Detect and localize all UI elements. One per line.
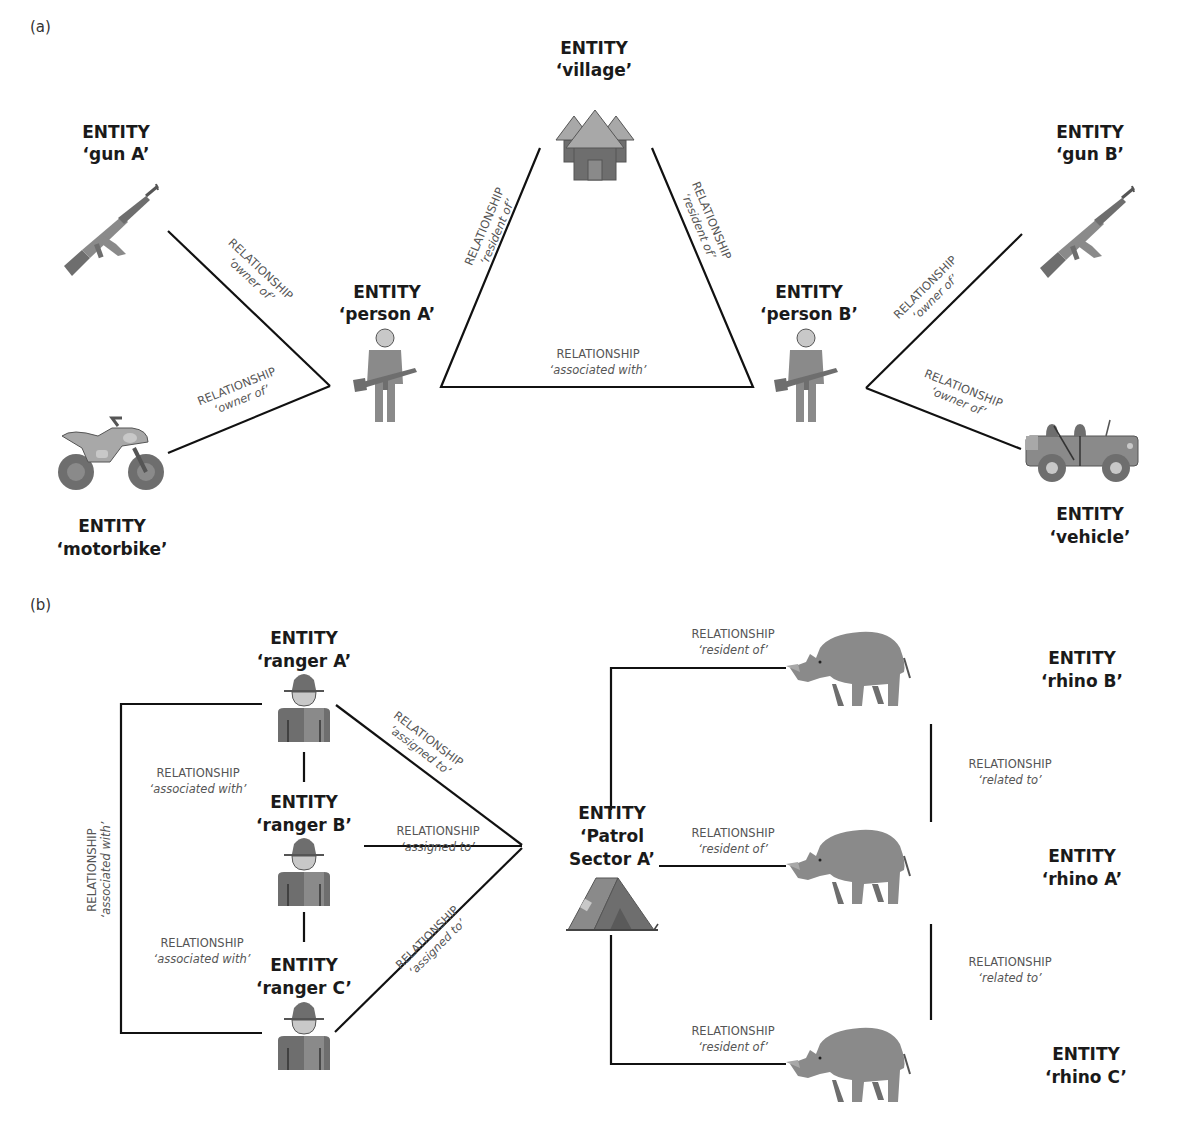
rel-label-rangerB-rangerC: RELATIONSHIP ‘associated with’ xyxy=(154,936,251,966)
entity-person-b: ENTITY ‘person B’ xyxy=(760,282,858,422)
rel-label-personA-motorbike: RELATIONSHIP ‘owner of’ xyxy=(195,364,283,421)
entity-rhino-b: ENTITY ‘rhino B’ xyxy=(786,632,1123,706)
svg-text:RELATIONSHIP: RELATIONSHIP xyxy=(396,824,479,838)
svg-text:‘resident of’: ‘resident of’ xyxy=(698,643,768,657)
rel-label-rangerA-rangerC: RELATIONSHIP ‘associated with’ xyxy=(85,821,113,918)
entity-type: ENTITY xyxy=(1052,1044,1120,1064)
svg-text:RELATIONSHIP: RELATIONSHIP xyxy=(160,936,243,950)
entity-type: ENTITY xyxy=(78,516,146,536)
rel-label-rhinoC-patrol: RELATIONSHIP ‘resident of’ xyxy=(691,1024,774,1054)
entity-gun-a: ENTITY ‘gun A’ xyxy=(64,122,158,276)
entity-type: ENTITY xyxy=(270,628,338,648)
svg-text:RELATIONSHIP: RELATIONSHIP xyxy=(691,826,774,840)
svg-text:RELATIONSHIP: RELATIONSHIP xyxy=(85,828,99,911)
svg-text:RELATIONSHIP: RELATIONSHIP xyxy=(156,766,239,780)
entity-type: ENTITY xyxy=(1056,504,1124,524)
tent-icon xyxy=(566,878,658,930)
entity-name: ‘ranger C’ xyxy=(256,978,352,998)
panel-a-edges xyxy=(168,148,1022,453)
rifle-icon xyxy=(1040,186,1134,278)
panel-b-label: (b) xyxy=(30,596,51,614)
rhino-icon xyxy=(786,1028,910,1102)
svg-text:‘resident of’: ‘resident of’ xyxy=(698,842,768,856)
entity-ranger-a: ENTITY ‘ranger A’ xyxy=(257,628,351,742)
entity-name: ‘gun B’ xyxy=(1056,144,1124,164)
rel-label-rhinoB-patrol: RELATIONSHIP ‘resident of’ xyxy=(691,627,774,657)
rhino-icon xyxy=(786,830,910,904)
rel-label-rangerC-patrol: RELATIONSHIP ‘assigned to’ xyxy=(393,903,472,982)
entity-name: ‘person B’ xyxy=(760,304,858,324)
edge-rangerA-rangerC xyxy=(121,704,262,1033)
rel-label-personB-vehicle: RELATIONSHIP ‘owner of’ xyxy=(917,366,1005,423)
rel-label-rhinoA-patrol: RELATIONSHIP ‘resident of’ xyxy=(691,826,774,856)
rhino-icon xyxy=(786,632,910,706)
svg-text:‘associated with’: ‘associated with’ xyxy=(150,782,247,796)
entity-rhino-a: ENTITY ‘rhino A’ xyxy=(786,830,1122,904)
entity-type: ENTITY xyxy=(82,122,150,142)
entity-type: ENTITY xyxy=(560,38,628,58)
entity-patrol-sector-a: ENTITY ‘Patrol Sector A’ xyxy=(566,803,658,930)
edge-patrol-rhinoB xyxy=(611,668,786,810)
entity-motorbike: ENTITY ‘motorbike’ xyxy=(57,418,168,559)
rel-label-personA-personB: RELATIONSHIP ‘associated with’ xyxy=(550,347,647,377)
entity-name: ‘vehicle’ xyxy=(1050,527,1131,547)
entity-type: ENTITY xyxy=(578,803,646,823)
ranger-icon xyxy=(278,674,330,742)
entity-name: ‘rhino C’ xyxy=(1045,1067,1127,1087)
rel-label-personA-gunA: RELATIONSHIP ‘owner of’ xyxy=(216,236,296,313)
entity-village: ENTITY ‘village’ xyxy=(556,38,634,180)
entity-type: ENTITY xyxy=(775,282,843,302)
ranger-icon xyxy=(278,838,330,906)
entity-rhino-c: ENTITY ‘rhino C’ xyxy=(786,1028,1127,1102)
rel-label-personB-gunB: RELATIONSHIP ‘owner of’ xyxy=(891,253,970,332)
entity-type: ENTITY xyxy=(1048,846,1116,866)
rel-label-rangerB-patrol: RELATIONSHIP ‘assigned to’ xyxy=(396,824,479,854)
panel-a-label: (a) xyxy=(30,18,51,36)
ranger-icon xyxy=(278,1002,330,1070)
entity-type: ENTITY xyxy=(1056,122,1124,142)
rel-label-rangerA-patrol: RELATIONSHIP ‘assigned to’ xyxy=(383,708,466,780)
entity-name: ‘ranger A’ xyxy=(257,651,351,671)
entity-person-a: ENTITY ‘person A’ xyxy=(339,282,435,422)
entity-relationship-diagram: (a) ENTITY ‘gun A’ ENTITY ‘village’ ENTI… xyxy=(0,0,1178,1140)
svg-text:‘associated with’: ‘associated with’ xyxy=(550,363,647,377)
armed-person-icon xyxy=(353,329,417,422)
motorbike-icon xyxy=(58,418,164,490)
rel-label-personA-village: RELATIONSHIP ‘resident of’ xyxy=(462,185,520,273)
entity-name: ‘village’ xyxy=(556,60,633,80)
jeep-icon xyxy=(1026,420,1138,482)
entity-name: ‘gun A’ xyxy=(83,144,150,164)
svg-text:‘associated with’: ‘associated with’ xyxy=(99,821,113,918)
svg-text:RELATIONSHIP: RELATIONSHIP xyxy=(968,955,1051,969)
entity-name: ‘person A’ xyxy=(339,304,435,324)
entity-type: ENTITY xyxy=(353,282,421,302)
svg-text:‘related to’: ‘related to’ xyxy=(978,971,1042,985)
entity-type: ENTITY xyxy=(270,792,338,812)
rel-label-rhinoB-rhinoA: RELATIONSHIP ‘related to’ xyxy=(968,757,1051,787)
svg-text:‘related to’: ‘related to’ xyxy=(978,773,1042,787)
svg-text:‘assigned to’: ‘assigned to’ xyxy=(401,840,475,854)
entity-name-line1: ‘Patrol xyxy=(580,826,644,846)
entity-name: ‘motorbike’ xyxy=(57,539,168,559)
entity-type: ENTITY xyxy=(1048,648,1116,668)
svg-text:‘resident of’: ‘resident of’ xyxy=(698,1040,768,1054)
svg-text:RELATIONSHIP: RELATIONSHIP xyxy=(968,757,1051,771)
entity-vehicle: ENTITY ‘vehicle’ xyxy=(1026,420,1138,547)
entity-name: ‘rhino A’ xyxy=(1042,869,1123,889)
entity-name-line2: Sector A’ xyxy=(569,849,655,869)
rifle-icon xyxy=(64,184,158,276)
svg-text:RELATIONSHIP: RELATIONSHIP xyxy=(556,347,639,361)
armed-person-icon xyxy=(774,329,838,422)
rel-label-rhinoA-rhinoC: RELATIONSHIP ‘related to’ xyxy=(968,955,1051,985)
svg-text:RELATIONSHIP: RELATIONSHIP xyxy=(691,627,774,641)
svg-text:RELATIONSHIP: RELATIONSHIP xyxy=(691,1024,774,1038)
entity-ranger-c: ENTITY ‘ranger C’ xyxy=(256,955,352,1070)
entity-ranger-b: ENTITY ‘ranger B’ xyxy=(256,792,352,906)
entity-name: ‘rhino B’ xyxy=(1041,671,1123,691)
entity-name: ‘ranger B’ xyxy=(256,815,352,835)
entity-type: ENTITY xyxy=(270,955,338,975)
svg-text:‘associated with’: ‘associated with’ xyxy=(154,952,251,966)
village-huts-icon xyxy=(556,110,634,180)
rel-label-rangerA-rangerB: RELATIONSHIP ‘associated with’ xyxy=(150,766,247,796)
entity-gun-b: ENTITY ‘gun B’ xyxy=(1040,122,1134,278)
